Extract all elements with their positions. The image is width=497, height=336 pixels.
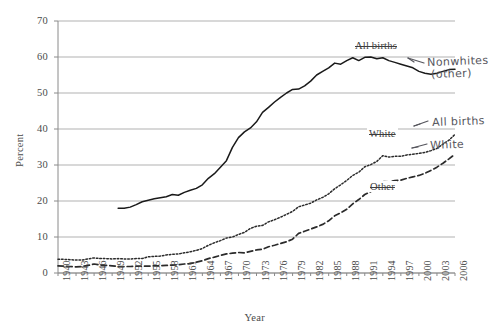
axis-ticks: [54, 21, 455, 276]
x-tick-label: 1976: [279, 260, 289, 281]
handwritten-annotation-white: White: [430, 139, 464, 152]
series-path-solid: [118, 57, 455, 208]
y-tick-label: 70: [22, 16, 48, 27]
x-tick-label: 1994: [387, 260, 397, 281]
y-tick-label: 50: [22, 88, 48, 99]
axis-lines: [58, 21, 455, 273]
chart-plot-area: [0, 0, 497, 336]
y-tick-label: 10: [22, 232, 48, 243]
x-tick-label: 1961: [188, 260, 198, 281]
gridlines: [58, 21, 455, 273]
y-tick-label: 20: [22, 196, 48, 207]
chart-figure: Percent Year 706050403020100 19401943194…: [0, 0, 497, 336]
x-tick-label: 1985: [333, 260, 343, 281]
x-tick-label: 1946: [98, 260, 108, 281]
x-tick-label: 1997: [405, 260, 415, 281]
x-tick-label: 2000: [423, 260, 433, 281]
x-tick-label: 1988: [351, 260, 361, 281]
series-path-dashed: [58, 154, 455, 267]
y-tick-label: 40: [22, 124, 48, 135]
x-tick-label: 1964: [206, 260, 216, 281]
x-tick-label: 1949: [116, 260, 126, 281]
y-tick-label: 60: [22, 52, 48, 63]
x-tick-label: 2003: [441, 260, 451, 281]
y-tick-label: 0: [22, 268, 48, 279]
x-tick-label: 1979: [297, 260, 307, 281]
series-label-all-births: All births: [353, 40, 399, 51]
x-tick-label: 1973: [261, 260, 271, 281]
handwritten-annotation-all-births: All births: [432, 115, 485, 129]
handwritten-annotation-nonwhites-other: (other): [431, 68, 472, 81]
y-tick-label: 30: [22, 160, 48, 171]
x-tick-label: 1967: [224, 260, 234, 281]
series-label-other: Other: [368, 181, 397, 192]
x-axis-title: Year: [245, 312, 266, 323]
x-tick-label: 1952: [134, 260, 144, 281]
series-lines: [58, 57, 455, 267]
x-tick-label: 1940: [62, 260, 72, 281]
x-tick-label: 1991: [369, 260, 379, 281]
x-tick-label: 2006: [459, 260, 469, 281]
x-tick-label: 1982: [315, 260, 325, 281]
x-tick-label: 1955: [152, 260, 162, 281]
series-path-dotted: [58, 134, 455, 260]
x-tick-label: 1958: [170, 260, 180, 281]
series-label-white: White: [367, 128, 398, 139]
x-tick-label: 1970: [242, 260, 252, 281]
x-tick-label: 1943: [80, 260, 90, 281]
